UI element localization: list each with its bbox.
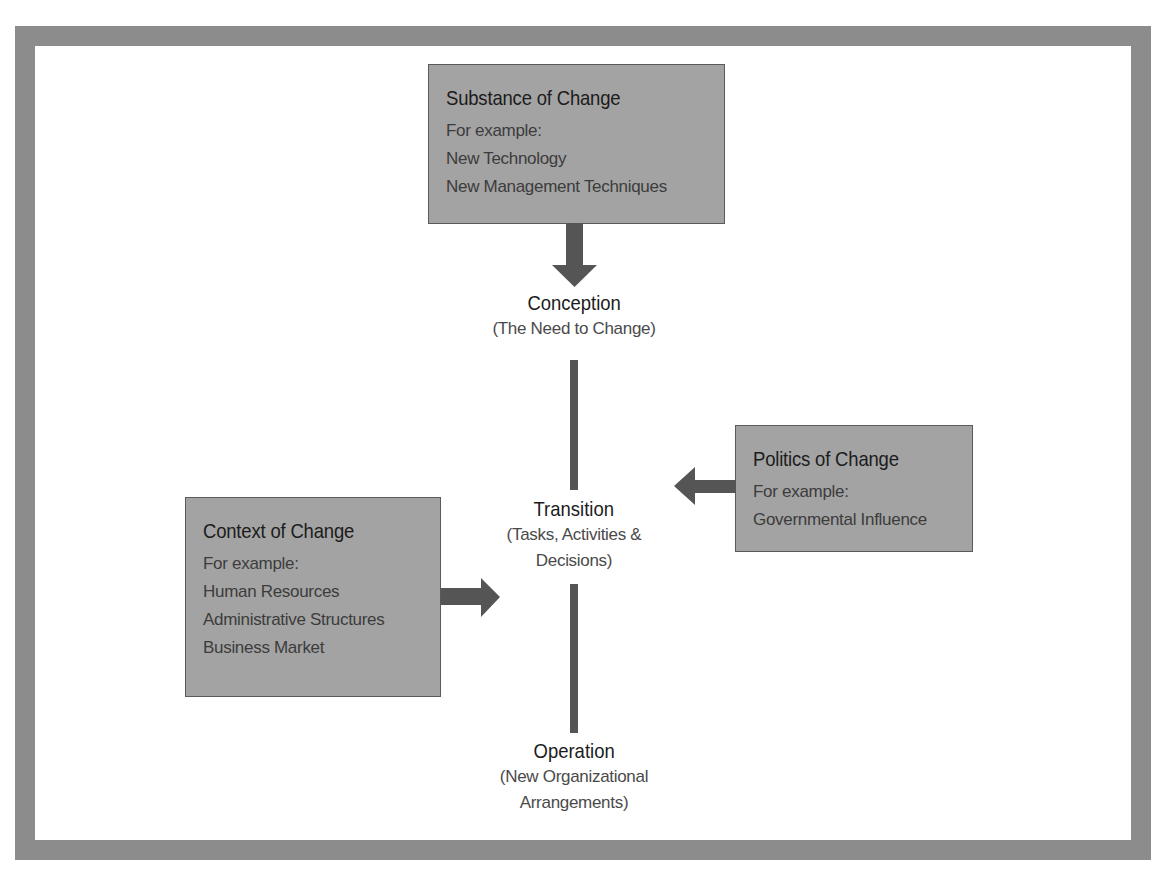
stage-subtitle: (Tasks, Activities & [424,522,724,548]
box-title: Politics of Change [753,446,931,472]
stage-subtitle: Arrangements) [424,790,724,816]
stage-conception: Conception (The Need to Change) [424,290,724,342]
box-line: Administrative Structures [203,606,423,634]
substance-of-change-box: Substance of Change For example: New Tec… [428,64,725,224]
connector-line-conception-transition [570,360,578,490]
stage-title: Conception [527,290,621,316]
box-title: Substance of Change [446,85,676,111]
stage-transition: Transition (Tasks, Activities & Decision… [424,496,724,574]
box-line: For example: [753,478,955,506]
stage-title: Operation [533,738,614,764]
box-line: For example: [446,117,707,145]
politics-of-change-box: Politics of Change For example: Governme… [735,425,973,552]
stage-subtitle: (The Need to Change) [424,316,724,342]
context-of-change-box: Context of Change For example: Human Res… [185,497,441,697]
arrow-down-icon [552,223,598,289]
box-line: New Management Techniques [446,173,707,201]
connector-line-transition-operation [570,584,578,733]
stage-subtitle: Decisions) [424,548,724,574]
stage-operation: Operation (New Organizational Arrangemen… [424,738,724,816]
box-line: New Technology [446,145,707,173]
arrow-right-icon [441,578,501,618]
box-line: Human Resources [203,578,423,606]
box-title: Context of Change [203,518,397,544]
stage-subtitle: (New Organizational [424,764,724,790]
box-line: For example: [203,550,423,578]
box-line: Business Market [203,634,423,662]
box-line: Governmental Influence [753,506,955,534]
stage-title: Transition [534,496,614,522]
